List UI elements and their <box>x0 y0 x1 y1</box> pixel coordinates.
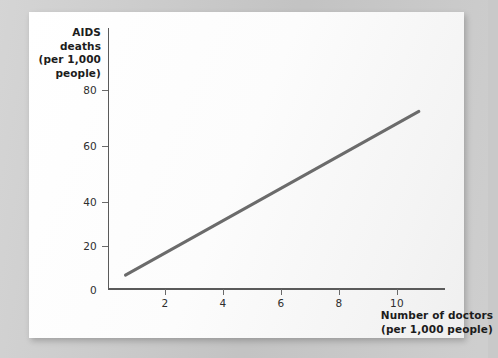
x-axis-title-line-2: (per 1,000 people) <box>367 323 498 337</box>
scatter-line-plot: AIDS deaths (per 1,000 people) 80 60 40 … <box>29 12 464 338</box>
chart-card: AIDS deaths (per 1,000 people) 80 60 40 … <box>29 12 464 338</box>
y-tick-label-0: 0 <box>53 284 97 296</box>
y-tick-label-40: 40 <box>53 196 97 208</box>
y-axis-title-line-1: AIDS <box>29 26 101 40</box>
series-line-aids-deaths <box>108 28 445 290</box>
x-tick-label-8: 8 <box>324 297 354 309</box>
y-axis-title-line-2: deaths <box>29 40 101 54</box>
x-tick-label-10: 10 <box>382 297 412 309</box>
x-tick-label-4: 4 <box>208 297 238 309</box>
x-tick-label-2: 2 <box>150 297 180 309</box>
y-tick-label-60: 60 <box>53 140 97 152</box>
y-tick-label-80: 80 <box>53 84 97 96</box>
y-axis-title: AIDS deaths (per 1,000 people) <box>29 26 101 80</box>
y-axis-title-line-4: people) <box>29 67 101 81</box>
series-segment <box>125 111 418 275</box>
y-axis-title-line-3: (per 1,000 <box>29 53 101 67</box>
x-axis-title-line-1: Number of doctors <box>367 309 498 323</box>
x-tick-label-6: 6 <box>266 297 296 309</box>
x-axis-title: Number of doctors (per 1,000 people) <box>367 309 498 336</box>
y-tick-label-20: 20 <box>53 240 97 252</box>
